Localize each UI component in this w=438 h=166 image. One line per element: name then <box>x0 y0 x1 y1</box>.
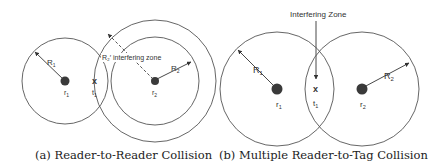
reader2-label: r2 <box>360 100 366 110</box>
reader1-node <box>272 84 283 95</box>
tag-label: t1 <box>313 99 318 109</box>
r2-radius-label: R2 <box>171 64 180 74</box>
reader1-label: r1 <box>64 89 69 98</box>
collision-diagram: R1 r1 x t1 r2 R2 R₂′ interfering zone In… <box>0 0 438 166</box>
tag-marker: x <box>313 84 318 94</box>
r1-radius-label: R1 <box>47 58 56 68</box>
panel-a-reader-to-reader: R1 r1 x t1 r2 R2 R₂′ interfering zone <box>22 20 216 142</box>
reader1-node <box>61 77 70 86</box>
interfering-zone-label: R₂′ interfering zone <box>102 54 161 62</box>
reader1-label: r1 <box>276 100 282 110</box>
caption-a: (a) Reader-to-Reader Collision <box>35 148 213 162</box>
r2-radius-label: R2 <box>384 71 395 82</box>
interfering-zone-title: Interfering Zone <box>290 10 347 19</box>
caption-b: (b) Multiple Reader-to-Tag Collision <box>219 148 428 162</box>
panel-b-multiple-reader-to-tag: Interfering Zone R1 r1 x t1 r2 R2 <box>220 10 419 146</box>
reader2-label: r2 <box>152 89 157 98</box>
reader2-node <box>357 84 368 95</box>
tag-marker: x <box>92 76 97 86</box>
r1-radius-label: R1 <box>253 65 264 76</box>
